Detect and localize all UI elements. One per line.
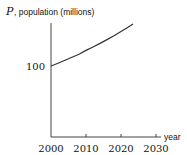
y-tick-label-100: 100 — [26, 61, 45, 72]
x-axis-label: year — [164, 132, 181, 142]
x-tick-label-2000: 2000 — [38, 143, 63, 154]
y-axis-label: , population (millions) — [14, 7, 94, 17]
population-curve — [51, 24, 133, 66]
x-tick-label-2030: 2030 — [143, 143, 168, 154]
y-axis-symbol: P — [5, 5, 14, 18]
x-tick-label-2010: 2010 — [73, 143, 98, 154]
x-tick-label-2020: 2020 — [108, 143, 133, 154]
chart: P , population (millions) 2000 2010 2020… — [0, 0, 187, 155]
